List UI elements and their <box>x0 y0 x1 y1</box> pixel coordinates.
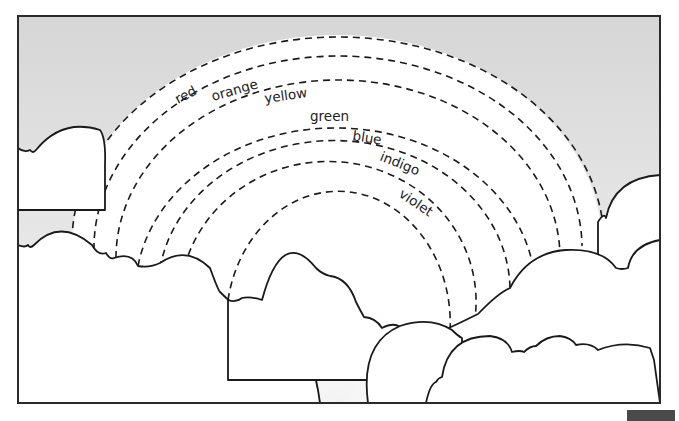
cloud-bottom-right <box>426 336 660 403</box>
label-green: green <box>310 108 349 124</box>
corner-tab <box>627 410 675 421</box>
rainbow-worksheet: red orange yellow green blue indigo viol… <box>0 0 679 421</box>
